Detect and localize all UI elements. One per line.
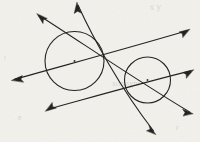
ghost-mark-bottom-left: e [18,113,22,122]
ghost-mark-mid-right: xomsgni [112,79,140,88]
ghost-mark-top-right: x y [149,1,161,12]
ghost-mark-left-edge: l [4,54,6,62]
figure-canvas: x y xomsgni e r l [0,0,200,142]
geometry-figure: x y xomsgni e r l [0,0,200,142]
left-circle-center-dot [74,60,76,62]
ghost-mark-bottom-right: r [176,123,179,132]
paper-grain [0,0,200,142]
right-circle-center-dot [147,79,149,81]
